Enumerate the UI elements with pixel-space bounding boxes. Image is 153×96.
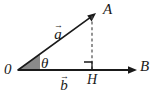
- point-b-label: B: [140, 59, 149, 74]
- vector-b-arrowhead: [128, 66, 137, 74]
- vector-projection-diagram: 0 θ A B H → a → b: [0, 0, 153, 96]
- foot-h-label: H: [87, 73, 97, 87]
- point-a-label: A: [103, 2, 112, 17]
- angle-theta-label: θ: [41, 56, 48, 71]
- origin-label: 0: [4, 62, 12, 77]
- vector-a-glyph: a: [50, 28, 66, 40]
- vector-b-glyph: b: [56, 79, 72, 91]
- right-angle-marker: [84, 62, 92, 70]
- vector-b-label: → b: [56, 73, 72, 91]
- vector-a-label: → a: [50, 22, 66, 40]
- diagram-canvas: [0, 0, 153, 96]
